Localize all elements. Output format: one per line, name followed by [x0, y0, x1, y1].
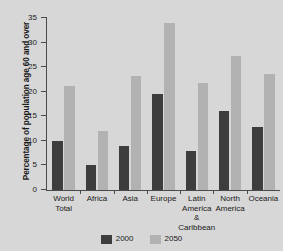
y-tick-label: 5: [33, 160, 37, 170]
bar-2000: [152, 94, 163, 190]
bars-layer: [47, 18, 280, 190]
bar-2000: [86, 165, 97, 190]
bar-group: [213, 18, 246, 190]
bar-group: [247, 18, 280, 190]
legend-swatch-icon: [150, 235, 161, 244]
bar-2050: [231, 56, 242, 190]
legend-label: 2050: [165, 234, 183, 244]
bar-2050: [164, 23, 175, 190]
legend-item[interactable]: 2050: [150, 234, 183, 244]
x-axis-category-line: Caribbean: [172, 223, 221, 233]
y-tick-label: 10: [28, 136, 37, 146]
y-tick-label: 25: [28, 62, 37, 72]
x-axis-category-line: America: [205, 204, 254, 214]
legend-item[interactable]: 2000: [101, 234, 134, 244]
bar-2000: [252, 127, 263, 190]
bar-2050: [198, 83, 209, 190]
y-tick: 35: [0, 13, 46, 23]
bar-2000: [52, 141, 63, 190]
chart-legend: 20002050: [0, 232, 283, 246]
legend-label: 2000: [116, 234, 134, 244]
y-tick: 15: [0, 111, 46, 121]
bar-2000: [219, 111, 230, 190]
y-tick: 20: [0, 87, 46, 97]
bar-group: [47, 18, 80, 190]
bar-group: [180, 18, 213, 190]
y-tick: 10: [0, 136, 46, 146]
bar-group: [147, 18, 180, 190]
x-axis-category-label: Oceania: [239, 194, 283, 204]
y-tick-label: 15: [28, 111, 37, 121]
bar-2050: [98, 131, 109, 190]
y-tick-label: 30: [28, 38, 37, 48]
bar-group: [114, 18, 147, 190]
bar-2050: [264, 74, 275, 190]
bar-chart: Percentage of population age 60 and over…: [0, 0, 283, 251]
y-tick-label: 20: [28, 87, 37, 97]
y-tick-label: 0: [33, 185, 37, 195]
legend-swatch-icon: [101, 235, 112, 244]
x-axis-category-line: &: [172, 213, 221, 223]
bar-group: [80, 18, 113, 190]
y-tick: 30: [0, 38, 46, 48]
bar-2000: [186, 151, 197, 190]
bar-2000: [119, 146, 130, 190]
bar-2050: [131, 76, 142, 191]
y-tick-label: 35: [28, 13, 37, 23]
y-tick: 5: [0, 160, 46, 170]
x-axis-category-line: Total: [39, 204, 88, 214]
y-tick: 25: [0, 62, 46, 72]
bar-2050: [64, 86, 75, 190]
x-axis-category-line: Oceania: [239, 194, 283, 204]
